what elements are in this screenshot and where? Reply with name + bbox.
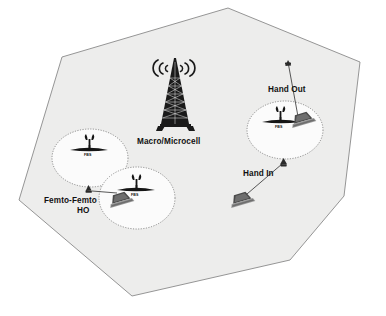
femto-femto-label-line1: Femto-Femto <box>44 196 97 205</box>
femto-femto-label-line2: HO <box>77 206 90 215</box>
hand-out-label: Hand Out <box>268 85 306 94</box>
femto-bs-label-right: FBS <box>275 125 283 129</box>
femto-bs-label-lower: FBS <box>131 193 139 197</box>
femto-bs-label-left: FBS <box>84 153 92 157</box>
femto-cell-right: FBS <box>247 101 323 159</box>
hand-in-label: Hand In <box>243 169 274 178</box>
femto-cell-lower: FBS <box>99 167 175 229</box>
macro-cell-label: Macro/Microcell <box>137 137 200 146</box>
femtocell-handover-diagram: Macro/Microcell FBS FBS <box>0 0 386 316</box>
femto-coverage-lower <box>99 167 175 229</box>
diagram-canvas: Macro/Microcell FBS FBS <box>0 0 386 316</box>
